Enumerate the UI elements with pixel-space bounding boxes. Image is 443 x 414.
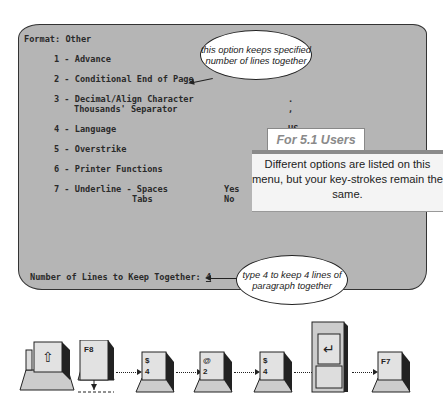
key-4: $ 4 (134, 350, 176, 394)
menu-item-1[interactable]: 1 - Advance (54, 54, 111, 64)
enter-arrow-icon: ↵ (323, 341, 335, 357)
svg-text:@: @ (203, 356, 211, 365)
f7-key: F7 (370, 350, 412, 394)
menu-item-7-sub: Tabs (132, 194, 153, 204)
callout-top: this option keeps specified number of li… (200, 30, 312, 80)
f8-key: F8 (76, 340, 116, 398)
prompt: Number of Lines to Keep Together: 4 (30, 272, 211, 282)
svg-text:4: 4 (145, 367, 150, 376)
note-title: For 5.1 Users (267, 128, 365, 152)
menu-item-3-sub: Thousands' Separator (74, 104, 177, 114)
callout-bottom-arrow (210, 278, 237, 279)
underline-spaces-value: Yes (224, 184, 240, 194)
menu-item-4[interactable]: 4 - Language (54, 124, 116, 134)
svg-text:$: $ (263, 356, 268, 365)
menu-item-7[interactable]: 7 - Underline - Spaces (54, 184, 168, 194)
svg-text:4: 4 (263, 367, 268, 376)
menu-item-2[interactable]: 2 - Conditional End of Page (54, 74, 194, 84)
menu-item-3[interactable]: 3 - Decimal/Align Character (54, 94, 194, 104)
menu-item-6[interactable]: 6 - Printer Functions (54, 164, 163, 174)
svg-text:F8: F8 (84, 345, 94, 354)
decimal-value: . (288, 94, 293, 104)
underline-tabs-value: No (224, 194, 234, 204)
svg-text:$: $ (145, 356, 150, 365)
key-4: $ 4 (252, 350, 294, 394)
svg-text:2: 2 (203, 367, 208, 376)
screen-header: Format: Other (24, 34, 91, 44)
enter-key: ↵ (310, 320, 350, 394)
callout-bottom: type 4 to keep 4 lines of paragraph toge… (236, 255, 348, 305)
note-body: Different options are listed on this men… (252, 150, 443, 212)
svg-text:F7: F7 (381, 357, 391, 366)
menu-item-5[interactable]: 5 - Overstrike (54, 144, 126, 154)
key-2: @ 2 (192, 350, 234, 394)
thousands-value: , (288, 104, 293, 114)
shift-arrow-icon: ⇧ (42, 349, 54, 365)
shift-key: ⇧ (18, 340, 76, 392)
